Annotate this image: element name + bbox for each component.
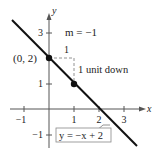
point-label: (0, 2) bbox=[13, 52, 37, 65]
y-tick-label: −1 bbox=[32, 129, 43, 140]
y-axis-arrow-icon bbox=[47, 13, 52, 20]
y-tick-label: 3 bbox=[38, 27, 43, 38]
x-axis-arrow-icon bbox=[139, 107, 146, 112]
rise-label: 1 unit down bbox=[78, 64, 129, 75]
graph-canvas: −1 1 2 3 3 1 −1 x y m = −1 (0, 2) 1 1 un… bbox=[0, 0, 157, 152]
y-tick-label: 1 bbox=[38, 78, 43, 89]
point-0-2 bbox=[46, 55, 52, 61]
line-graph-figure: −1 1 2 3 3 1 −1 x y m = −1 (0, 2) 1 1 un… bbox=[0, 0, 157, 152]
slope-label: m = −1 bbox=[65, 26, 97, 38]
x-tick-label: 3 bbox=[122, 114, 127, 125]
run-label: 1 bbox=[64, 44, 69, 55]
y-axis-label: y bbox=[51, 5, 57, 16]
equation-label: y = −x + 2 bbox=[59, 130, 103, 141]
x-tick-label: 1 bbox=[72, 114, 77, 125]
x-axis-label: x bbox=[146, 103, 152, 114]
x-tick-label: 2 bbox=[97, 114, 102, 125]
x-tick-label: −1 bbox=[16, 114, 27, 125]
point-1-1 bbox=[71, 81, 77, 87]
